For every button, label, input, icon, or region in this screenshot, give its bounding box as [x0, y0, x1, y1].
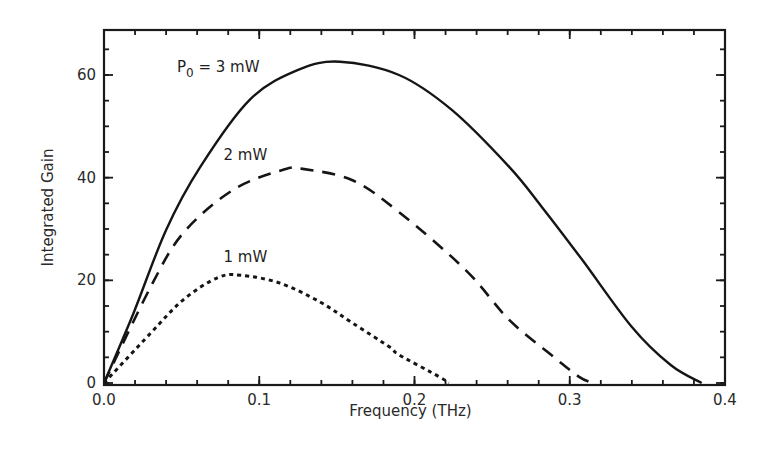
- x-axis-title: Frequency (THz): [349, 402, 471, 420]
- y-axis-title: Integrated Gain: [39, 149, 57, 267]
- y-tick-label: 0: [86, 374, 96, 392]
- series-line-1-mw: [104, 275, 449, 383]
- x-tick-label: 0.3: [558, 391, 582, 409]
- x-tick-label: 0.4: [713, 391, 737, 409]
- y-tick-label: 60: [77, 66, 96, 84]
- y-tick-label: 40: [77, 169, 96, 187]
- series-lines: [104, 62, 702, 383]
- x-tick-label: 0.0: [92, 391, 116, 409]
- chart: 0.00.10.20.30.4 0204060 Frequency (THz) …: [0, 0, 771, 461]
- y-tick-label: 20: [77, 271, 96, 289]
- series-line-2-mw: [104, 167, 593, 383]
- y-tick-labels: 0204060: [77, 66, 96, 392]
- curve-label: 2 mW: [224, 146, 268, 164]
- curve-label: P0 = 3 mW: [177, 58, 260, 80]
- curve-annotations: P0 = 3 mW2 mW1 mW: [177, 58, 267, 266]
- x-tick-label: 0.1: [247, 391, 271, 409]
- curve-label: 1 mW: [224, 248, 268, 266]
